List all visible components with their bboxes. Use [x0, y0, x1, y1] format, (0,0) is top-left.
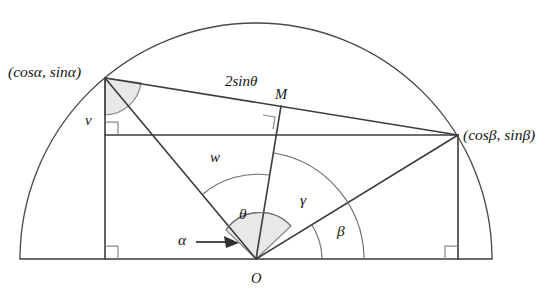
- alpha-pointer-arrow: [196, 236, 239, 248]
- geometry-diagram: (cosα, sinα) (cosβ, sinβ) 2sinθ M O v w …: [0, 0, 555, 297]
- right-angle-markers: [105, 115, 458, 259]
- right-angle-marker-v-w: [105, 122, 118, 135]
- label-angle-gamma: γ: [300, 191, 307, 208]
- radius-ob: [256, 135, 458, 259]
- angle-arc-gamma: [274, 153, 364, 259]
- angle-arc-theta: [203, 174, 269, 194]
- label-segment-v: v: [85, 112, 92, 128]
- label-angle-theta: θ: [239, 205, 247, 222]
- label-angle-beta: β: [336, 222, 345, 239]
- label-angle-alpha: α: [178, 231, 187, 248]
- label-origin-o: O: [251, 270, 262, 286]
- label-point-b-coords: (cosβ, sinβ): [463, 126, 535, 144]
- right-angle-marker-m: [263, 115, 275, 129]
- label-chord-length: 2sinθ: [225, 73, 258, 89]
- right-angle-marker-foot-b: [445, 246, 458, 259]
- label-midpoint-m: M: [274, 86, 288, 102]
- label-point-a-coords: (cosα, sinα): [8, 63, 81, 81]
- angle-arc-beta: [312, 225, 322, 259]
- diagram-text-labels: (cosα, sinα) (cosβ, sinβ) 2sinθ M O v w …: [8, 63, 535, 287]
- geometry-svg-canvas: (cosα, sinα) (cosβ, sinβ) 2sinθ M O v w …: [0, 0, 555, 297]
- shaded-wedges: [105, 78, 291, 259]
- label-segment-w: w: [210, 149, 220, 165]
- right-angle-marker-foot-a: [105, 246, 118, 259]
